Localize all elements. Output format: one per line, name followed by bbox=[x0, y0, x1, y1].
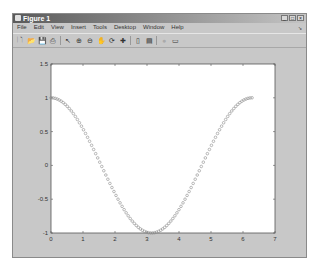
axes-box bbox=[51, 64, 275, 233]
x-tick-label: 4 bbox=[177, 236, 181, 242]
y-tick-label: 0 bbox=[45, 162, 49, 168]
y-tick-label: -1 bbox=[43, 230, 49, 236]
x-tick-label: 7 bbox=[273, 236, 277, 242]
y-tick-label: -0.5 bbox=[38, 196, 49, 202]
x-tick-label: 6 bbox=[241, 236, 245, 242]
x-tick-label: 2 bbox=[113, 236, 117, 242]
y-tick-label: 1 bbox=[45, 95, 49, 101]
y-tick-label: 1.5 bbox=[40, 61, 49, 67]
x-tick-label: 3 bbox=[145, 236, 149, 242]
plot-axes[interactable]: 01234567-1-0.500.511.5 bbox=[0, 0, 317, 268]
x-tick-label: 0 bbox=[49, 236, 53, 242]
y-tick-label: 0.5 bbox=[40, 129, 49, 135]
x-tick-label: 1 bbox=[81, 236, 85, 242]
x-tick-label: 5 bbox=[209, 236, 213, 242]
